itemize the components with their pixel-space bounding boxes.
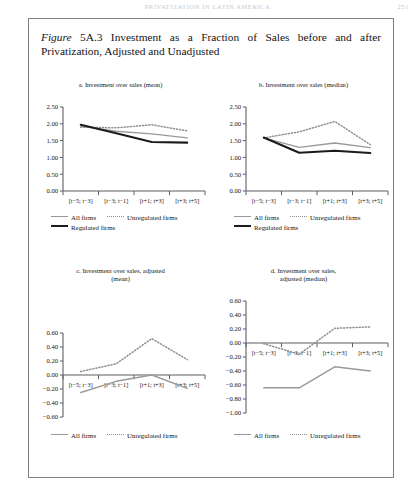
page-number: 251 bbox=[375, 3, 415, 10]
chart-a-title: a. Investment over sales (mean) bbox=[29, 81, 212, 99]
svg-text:[t−3; t−1]: [t−3; t−1] bbox=[287, 197, 311, 204]
svg-text:−0.40: −0.40 bbox=[43, 399, 59, 406]
svg-text:0.00: 0.00 bbox=[229, 339, 241, 346]
legend-swatch-all-firms bbox=[234, 434, 251, 435]
legend-label-unregulated-firms: Unregulated firms bbox=[310, 431, 360, 441]
chart-c-legend: All firms Unregulated firms bbox=[29, 431, 212, 441]
running-head-title: PRIVATIZATION IN LATIN AMERICA bbox=[0, 3, 375, 10]
chart-panel-a: a. Investment over sales (mean) 0.000.50… bbox=[29, 81, 212, 232]
chart-c-title: c. Investment over sales, adjusted (mean… bbox=[29, 267, 212, 285]
legend-item-all-firms: All firms bbox=[234, 213, 279, 223]
svg-text:1.00: 1.00 bbox=[229, 154, 241, 161]
chart-panel-d: d. Investment over sales, adjusted (medi… bbox=[212, 267, 395, 441]
legend-item-all-firms: All firms bbox=[234, 431, 279, 441]
legend-item-unregulated-firms: Unregulated firms bbox=[107, 213, 177, 223]
legend-label-regulated-firms: Regulated firms bbox=[71, 223, 115, 233]
svg-text:0.20: 0.20 bbox=[46, 357, 58, 364]
chart-a-plot: 0.000.501.001.502.002.50[t−5; t−3][t−3; … bbox=[29, 99, 212, 211]
chart-d-title-line1: d. Investment over sales, bbox=[226, 267, 381, 275]
legend-item-regulated-firms: Regulated firms bbox=[234, 223, 298, 233]
legend-label-unregulated-firms: Unregulated firms bbox=[310, 213, 360, 223]
legend-label-all-firms: All firms bbox=[254, 431, 279, 441]
legend-swatch-unregulated-firms bbox=[290, 216, 307, 217]
chart-panel-b: b. Investment over sales (median) 0.000.… bbox=[212, 81, 395, 232]
svg-text:[t+1; t+3]: [t+1; t+3] bbox=[140, 381, 164, 388]
svg-text:0.60: 0.60 bbox=[46, 329, 58, 336]
svg-text:0.50: 0.50 bbox=[46, 171, 58, 178]
svg-text:0.60: 0.60 bbox=[229, 297, 241, 304]
svg-text:[t+1; t+3]: [t+1; t+3] bbox=[323, 349, 347, 356]
svg-text:[t+3; t+5]: [t+3; t+5] bbox=[358, 349, 382, 356]
svg-text:[t−5; t−3]: [t−5; t−3] bbox=[69, 381, 93, 388]
legend-item-all-firms: All firms bbox=[51, 431, 96, 441]
chart-d-svg: −1.00−0.80−0.60−0.40−0.200.000.200.400.6… bbox=[212, 285, 395, 429]
chart-b-plot: 0.000.501.001.502.002.50[t−5; t−3][t−3; … bbox=[212, 99, 395, 211]
svg-text:2.50: 2.50 bbox=[229, 103, 241, 110]
legend-swatch-regulated-firms bbox=[51, 225, 68, 227]
svg-text:0.00: 0.00 bbox=[46, 371, 58, 378]
svg-text:1.50: 1.50 bbox=[229, 137, 241, 144]
legend-swatch-all-firms bbox=[51, 216, 68, 217]
chart-c-svg: −0.60−0.40−0.200.000.200.400.60[t−5; t−3… bbox=[29, 285, 212, 429]
chart-panel-c: c. Investment over sales, adjusted (mean… bbox=[29, 267, 212, 441]
svg-text:−1.00: −1.00 bbox=[226, 409, 242, 416]
legend-swatch-unregulated-firms bbox=[107, 434, 124, 435]
legend-swatch-unregulated-firms bbox=[290, 434, 307, 435]
svg-text:1.50: 1.50 bbox=[46, 137, 58, 144]
chart-c-title-line1: c. Investment over sales, adjusted bbox=[43, 267, 198, 275]
chart-b-title: b. Investment over sales (median) bbox=[212, 81, 395, 99]
chart-a-legend: All firms Unregulated firms Regulated fi… bbox=[29, 213, 212, 232]
legend-label-all-firms: All firms bbox=[71, 431, 96, 441]
svg-text:[t−5; t−3]: [t−5; t−3] bbox=[252, 349, 276, 356]
legend-swatch-all-firms bbox=[51, 434, 68, 435]
legend-swatch-all-firms bbox=[234, 216, 251, 217]
figure-label-word: Figure bbox=[41, 31, 72, 43]
svg-text:[t+1; t+3]: [t+1; t+3] bbox=[323, 197, 347, 204]
legend-label-unregulated-firms: Unregulated firms bbox=[127, 431, 177, 441]
svg-text:−0.80: −0.80 bbox=[226, 395, 242, 402]
chart-c-plot: −0.60−0.40−0.200.000.200.400.60[t−5; t−3… bbox=[29, 285, 212, 429]
chart-grid: a. Investment over sales (mean) 0.000.50… bbox=[29, 81, 395, 477]
chart-d-title-line2: adjusted (median) bbox=[226, 275, 381, 283]
running-head: PRIVATIZATION IN LATIN AMERICA 251 bbox=[0, 0, 415, 12]
legend-item-all-firms: All firms bbox=[51, 213, 96, 223]
svg-text:[t−3; t−1]: [t−3; t−1] bbox=[104, 197, 128, 204]
chart-a-svg: 0.000.501.001.502.002.50[t−5; t−3][t−3; … bbox=[29, 99, 212, 211]
svg-text:2.50: 2.50 bbox=[46, 103, 58, 110]
svg-text:−0.20: −0.20 bbox=[43, 385, 59, 392]
legend-label-all-firms: All firms bbox=[254, 213, 279, 223]
svg-text:−0.40: −0.40 bbox=[226, 367, 242, 374]
svg-text:2.00: 2.00 bbox=[46, 120, 58, 127]
svg-text:−0.20: −0.20 bbox=[226, 353, 242, 360]
legend-label-all-firms: All firms bbox=[71, 213, 96, 223]
figure-caption: Figure 5A.3 Investment as a Fraction of … bbox=[41, 30, 381, 58]
svg-text:[t−3; t−1]: [t−3; t−1] bbox=[287, 349, 311, 356]
svg-text:0.40: 0.40 bbox=[229, 311, 241, 318]
figure-frame: Figure 5A.3 Investment as a Fraction of … bbox=[28, 18, 394, 478]
svg-text:2.00: 2.00 bbox=[229, 120, 241, 127]
legend-swatch-regulated-firms bbox=[234, 225, 251, 227]
svg-text:1.00: 1.00 bbox=[46, 154, 58, 161]
svg-text:[t−5; t−3]: [t−5; t−3] bbox=[252, 197, 276, 204]
figure-label-number: 5A.3 bbox=[80, 31, 102, 43]
svg-text:0.00: 0.00 bbox=[229, 187, 241, 194]
legend-label-regulated-firms: Regulated firms bbox=[254, 223, 298, 233]
svg-text:0.20: 0.20 bbox=[229, 325, 241, 332]
chart-d-title: d. Investment over sales, adjusted (medi… bbox=[212, 267, 395, 285]
svg-text:−0.60: −0.60 bbox=[43, 413, 59, 420]
legend-item-unregulated-firms: Unregulated firms bbox=[290, 431, 360, 441]
svg-text:0.00: 0.00 bbox=[46, 187, 58, 194]
chart-c-title-line2: (mean) bbox=[43, 275, 198, 283]
svg-text:−0.60: −0.60 bbox=[226, 381, 242, 388]
legend-item-unregulated-firms: Unregulated firms bbox=[290, 213, 360, 223]
legend-label-unregulated-firms: Unregulated firms bbox=[127, 213, 177, 223]
svg-text:0.50: 0.50 bbox=[229, 171, 241, 178]
legend-swatch-unregulated-firms bbox=[107, 216, 124, 217]
chart-d-plot: −1.00−0.80−0.60−0.40−0.200.000.200.400.6… bbox=[212, 285, 395, 429]
legend-item-unregulated-firms: Unregulated firms bbox=[107, 431, 177, 441]
svg-text:[t−5; t−3]: [t−5; t−3] bbox=[69, 197, 93, 204]
svg-text:[t+3; t+5]: [t+3; t+5] bbox=[175, 197, 199, 204]
svg-text:[t+3; t+5]: [t+3; t+5] bbox=[358, 197, 382, 204]
chart-b-svg: 0.000.501.001.502.002.50[t−5; t−3][t−3; … bbox=[212, 99, 395, 211]
svg-text:0.40: 0.40 bbox=[46, 343, 58, 350]
